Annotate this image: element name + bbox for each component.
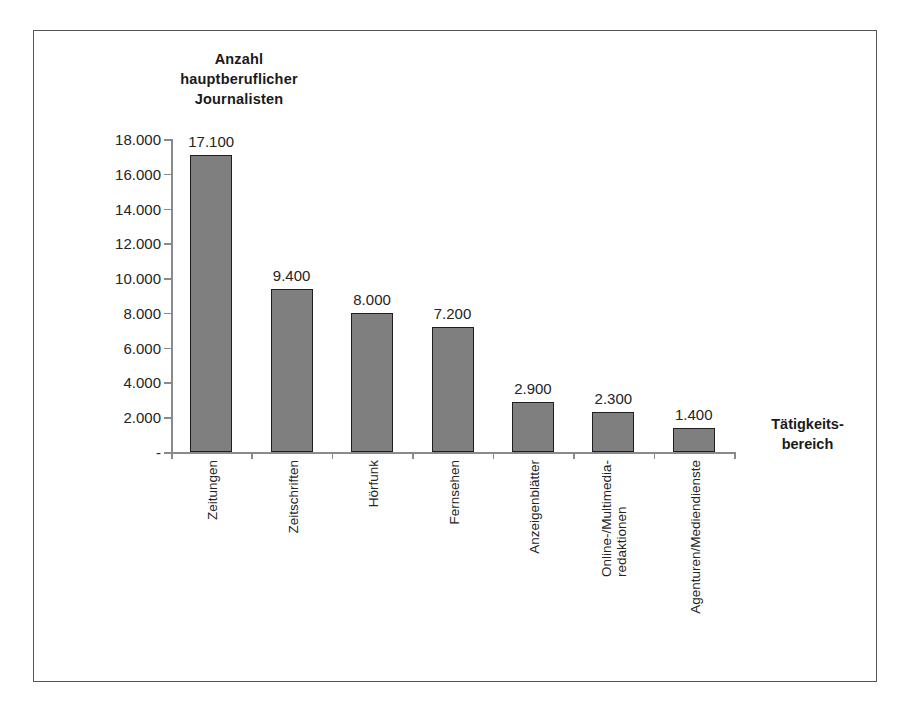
y-tick-label: 4.000 <box>123 374 161 391</box>
y-axis-title: Anzahl hauptberuflicher Journalisten <box>129 49 349 109</box>
x-tick <box>412 452 414 459</box>
bar <box>190 155 232 452</box>
bar <box>592 412 634 452</box>
bar <box>351 313 393 452</box>
x-category-label: Agenturen/Mediendienste <box>688 460 703 614</box>
x-category-label: Zeitschriften <box>286 460 301 534</box>
bar <box>271 289 313 452</box>
bar-value-label: 9.400 <box>247 267 337 284</box>
y-tick-label: 12.000 <box>115 235 161 252</box>
x-axis-line <box>171 452 734 454</box>
y-tick-label: 18.000 <box>115 131 161 148</box>
x-category-label: Fernsehen <box>447 460 462 525</box>
bar <box>432 327 474 452</box>
bar-value-label: 17.100 <box>166 133 256 150</box>
chart-figure: Anzahl hauptberuflicher Journalisten 18.… <box>33 30 877 682</box>
bar-value-label: 8.000 <box>327 291 417 308</box>
y-tick <box>164 417 171 419</box>
y-tick <box>164 174 171 176</box>
bar <box>512 402 554 452</box>
y-tick <box>164 382 171 384</box>
x-axis-title: Tätigkeits- bereich <box>740 414 875 454</box>
y-axis-line <box>171 139 173 452</box>
y-tick-label: - <box>156 444 161 461</box>
x-tick <box>171 452 173 459</box>
x-category-label: Hörfunk <box>366 460 381 507</box>
y-tick <box>164 209 171 211</box>
y-tick-label: 10.000 <box>115 270 161 287</box>
y-tick-label: 14.000 <box>115 200 161 217</box>
x-category-label: Online-/Multimedia- redaktionen <box>599 460 629 577</box>
y-tick <box>164 348 171 350</box>
y-tick <box>164 243 171 245</box>
x-tick <box>493 452 495 459</box>
bar-value-label: 2.900 <box>488 380 578 397</box>
x-tick <box>251 452 253 459</box>
x-tick <box>573 452 575 459</box>
y-tick <box>164 452 171 454</box>
bar-value-label: 1.400 <box>649 406 739 423</box>
x-tick <box>734 452 736 459</box>
bar <box>673 428 715 452</box>
bar-value-label: 2.300 <box>568 390 658 407</box>
x-tick <box>654 452 656 459</box>
y-tick-label: 8.000 <box>123 304 161 321</box>
y-tick <box>164 313 171 315</box>
x-tick <box>332 452 334 459</box>
y-tick-label: 2.000 <box>123 409 161 426</box>
plot-area: 18.00016.00014.00012.00010.0008.0006.000… <box>171 139 734 452</box>
y-tick <box>164 278 171 280</box>
x-category-label: Zeitungen <box>205 460 220 520</box>
y-tick-label: 16.000 <box>115 165 161 182</box>
x-category-label: Anzeigenblätter <box>527 460 542 554</box>
y-tick-label: 6.000 <box>123 339 161 356</box>
bar-value-label: 7.200 <box>408 305 498 322</box>
